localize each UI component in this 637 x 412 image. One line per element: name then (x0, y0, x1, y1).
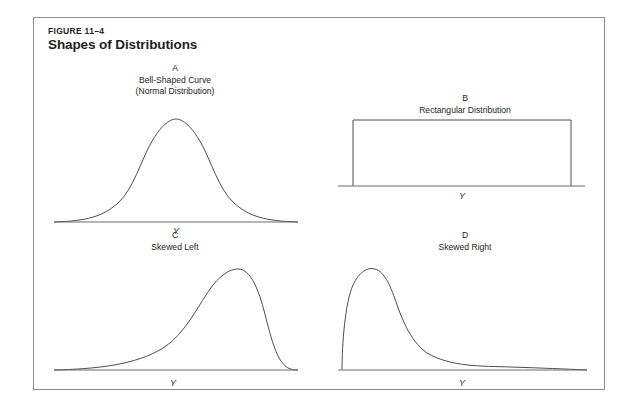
panel-c-caption: C Skewed Left (41, 230, 309, 253)
left-skewed-curve-path (54, 269, 298, 370)
panel-c-plot (41, 255, 309, 370)
panel-c-caption-line1: Skewed Left (41, 242, 309, 254)
right-skewed-curve-path (342, 269, 587, 370)
panel-c: C Skewed Left Y (41, 230, 309, 380)
panel-c-axis-label: Y (163, 378, 183, 388)
panel-c-letter: C (41, 230, 309, 242)
panel-a-caption-line2: (Normal Distribution) (41, 86, 309, 98)
figure-root: FIGURE 11–4 Shapes of Distributions A Be… (0, 0, 637, 412)
figure-number: FIGURE 11–4 (48, 26, 104, 36)
panel-a-caption-line1: Bell-Shaped Curve (41, 75, 309, 87)
panel-d-axis-label: Y (452, 378, 472, 388)
panel-d-caption-line1: Skewed Right (331, 242, 599, 254)
panel-d: D Skewed Right Y (331, 230, 599, 380)
rectangle-shape-path (353, 120, 571, 186)
panel-b-caption: B Rectangular Distribution (331, 93, 599, 116)
panel-b-letter: B (331, 93, 599, 105)
panel-a-plot (41, 99, 309, 214)
panel-d-plot (331, 255, 599, 370)
panel-b-caption-line1: Rectangular Distribution (331, 105, 599, 117)
figure-title: Shapes of Distributions (48, 37, 197, 52)
panel-d-caption: D Skewed Right (331, 230, 599, 253)
panel-a-letter: A (41, 63, 309, 75)
figure-frame: FIGURE 11–4 Shapes of Distributions A Be… (33, 17, 605, 390)
panel-d-letter: D (331, 230, 599, 242)
bell-curve-path (54, 119, 298, 222)
panel-a-caption: A Bell-Shaped Curve (Normal Distribution… (41, 63, 309, 98)
panel-b-axis-label: Y (452, 191, 472, 201)
panel-b: B Rectangular Distribution Y (331, 93, 599, 213)
panel-a: A Bell-Shaped Curve (Normal Distribution… (41, 63, 309, 213)
